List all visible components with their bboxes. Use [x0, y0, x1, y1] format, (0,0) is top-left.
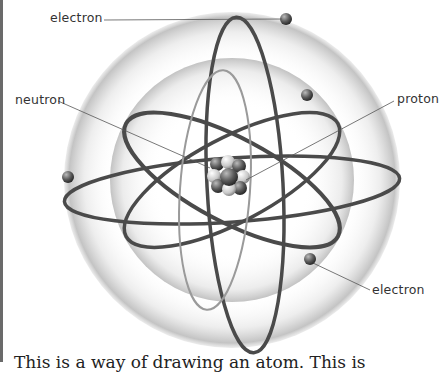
- electron-left: [62, 171, 74, 183]
- label-electron-bottom: electron: [372, 282, 425, 297]
- label-electron-top: electron: [50, 10, 103, 25]
- caption-text: This is a way of drawing an atom. This i…: [14, 352, 366, 372]
- label-neutron: neutron: [15, 92, 65, 107]
- label-proton: proton: [397, 91, 439, 106]
- electron-right: [301, 89, 313, 101]
- nucleus: [207, 155, 250, 196]
